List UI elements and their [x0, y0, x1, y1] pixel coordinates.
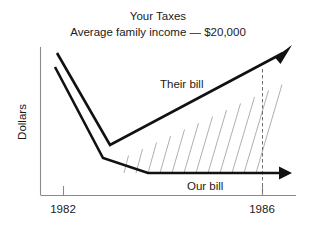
y-axis-label: Dollars	[16, 104, 28, 140]
taxes-chart: Your Taxes Average family income — $20,0…	[0, 0, 316, 232]
their-bill-label: Their bill	[160, 78, 203, 90]
our-bill-arrow-head	[279, 167, 292, 180]
our-bill-label: Our bill	[187, 180, 223, 192]
x-tick-label-1982: 1982	[50, 203, 76, 215]
chart-canvas: Your Taxes Average family income — $20,0…	[0, 0, 316, 232]
x-tick-label-1986: 1986	[249, 203, 275, 215]
chart-title: Your Taxes	[130, 10, 187, 22]
hatched-difference-region	[124, 85, 282, 174]
chart-subtitle: Average family income — $20,000	[70, 26, 246, 38]
